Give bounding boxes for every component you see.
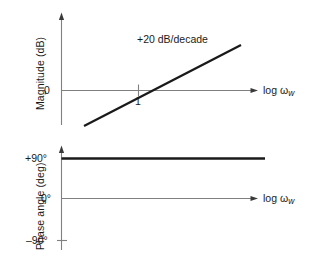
magnitude-ytick-zero-label: 0 xyxy=(44,84,50,96)
magnitude-panel: Magnitude (dB) 0 1 +20 dB/decade log ωw xyxy=(0,0,319,133)
magnitude-x-axis-label-subscript: w xyxy=(288,88,294,98)
phase-ytick-zero-label: 0° xyxy=(41,192,51,204)
phase-x-axis-label: log ωw xyxy=(263,192,294,206)
phase-ytick-minus90-label: –90° xyxy=(26,234,48,246)
phase-panel: Phase angle (deg) +90° 0° –90° log ωw xyxy=(0,133,319,265)
phase-x-axis-label-subscript: w xyxy=(288,196,294,206)
magnitude-xtick-one-label: 1 xyxy=(135,95,141,107)
magnitude-x-axis-label: log ωw xyxy=(263,84,294,98)
phase-x-axis-label-omega: ω xyxy=(280,192,288,204)
phase-ytick-plus90-label: +90° xyxy=(25,152,47,164)
magnitude-x-axis-label-omega: ω xyxy=(280,84,288,96)
magnitude-x-axis-label-prefix: log xyxy=(263,84,280,96)
bode-plot-figure: Magnitude (dB) 0 1 +20 dB/decade log ωw … xyxy=(0,0,319,265)
magnitude-y-axis-label: Magnitude (dB) xyxy=(34,37,46,110)
slope-annotation: +20 dB/decade xyxy=(137,33,208,45)
phase-x-axis-label-prefix: log xyxy=(263,192,280,204)
